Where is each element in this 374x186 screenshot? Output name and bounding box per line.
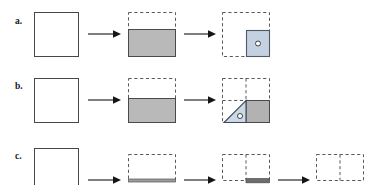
row-label-a: a. (15, 17, 22, 27)
row-a-inner-circle (256, 41, 261, 46)
row-c-panel-1-solid-square (35, 149, 79, 186)
row-b-panel-1-solid-square (35, 79, 79, 123)
row-label-c: c. (15, 152, 22, 162)
row-a-gray-fill (129, 30, 176, 57)
row-c-dark-gray-strip (246, 179, 270, 183)
row-b-wedge-circle (238, 114, 243, 119)
row-a-panel-1-solid-square (35, 13, 79, 57)
row-label-b: b. (15, 82, 23, 92)
schematic-figure (0, 0, 374, 185)
row-b-gray-block (246, 101, 270, 123)
row-b-gray-fill (129, 99, 176, 123)
row-c-thin-gray-strip (129, 179, 176, 182)
